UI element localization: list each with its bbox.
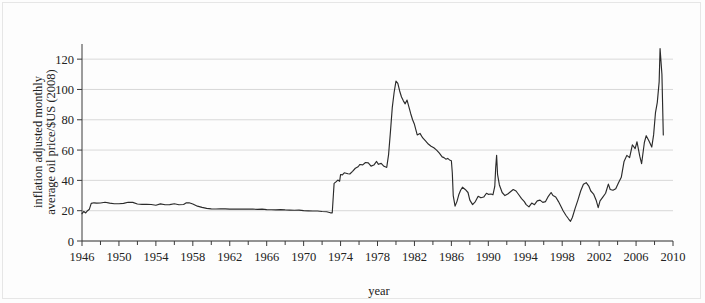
y-tick-label: 60 <box>62 144 75 158</box>
y-tick-label: 100 <box>55 83 74 97</box>
x-tick-label: 1954 <box>143 250 169 264</box>
axes <box>82 44 673 241</box>
y-tick-label: 120 <box>55 53 74 67</box>
x-axis-ticks <box>82 241 673 246</box>
x-tick-label: 1982 <box>402 250 427 264</box>
x-tick-label: 1966 <box>254 250 279 264</box>
x-tick-label: 2010 <box>661 250 686 264</box>
x-tick-label: 1994 <box>513 250 539 264</box>
oil-price-series-line <box>82 49 663 222</box>
x-tick-label: 1946 <box>70 250 95 264</box>
x-tick-label: 1950 <box>106 250 131 264</box>
y-tick-label: 40 <box>62 174 75 188</box>
x-axis-title: year <box>368 284 390 298</box>
figure-container: 020406080100120 194619501954195819621966… <box>0 0 705 303</box>
x-tick-label: 1998 <box>550 250 575 264</box>
x-tick-label: 2002 <box>587 250 612 264</box>
x-tick-label: 1958 <box>180 250 205 264</box>
y-tick-label: 80 <box>62 113 75 127</box>
x-axis-tick-labels: 1946195019541958196219661970197419781982… <box>70 250 686 264</box>
x-tick-label: 1962 <box>217 250 242 264</box>
x-tick-label: 1986 <box>439 250 464 264</box>
oil-price-line-chart: 020406080100120 194619501954195819621966… <box>0 0 705 303</box>
x-tick-label: 2006 <box>624 250 649 264</box>
x-tick-label: 1974 <box>328 250 354 264</box>
x-tick-label: 1970 <box>291 250 316 264</box>
y-axis-title-line-2: average oil price/$US (2008) <box>44 69 58 214</box>
y-axis-tick-labels: 020406080100120 <box>55 53 74 249</box>
y-tick-label: 20 <box>62 204 75 218</box>
y-tick-label: 0 <box>68 235 74 249</box>
data-series-group <box>82 49 663 222</box>
grid-lines <box>82 59 673 241</box>
y-axis-ticks <box>77 59 82 241</box>
x-tick-label: 1990 <box>476 250 501 264</box>
x-tick-label: 1978 <box>365 250 390 264</box>
y-axis-title-line-1: inflation adjusted monthly <box>31 75 45 208</box>
